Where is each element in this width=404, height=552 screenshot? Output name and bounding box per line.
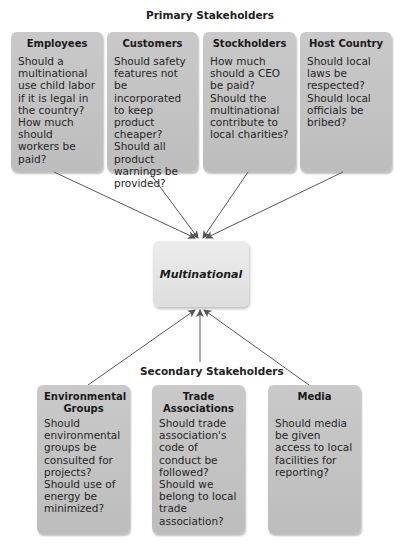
secondary-box-environmental-groups: Environmental Groups Should environmenta… xyxy=(37,385,130,534)
box-title: Environmental Groups xyxy=(44,391,123,415)
secondary-box-trade-associations: Trade Associations Should trade associat… xyxy=(152,385,245,534)
secondary-stakeholders-title: Secondary Stakeholders xyxy=(140,365,284,377)
multinational-box: Multinational xyxy=(153,241,249,307)
arrow-host-country xyxy=(206,172,343,238)
box-text: Should media be given access to local fa… xyxy=(275,417,354,478)
box-title: Trade Associations xyxy=(159,391,238,415)
box-text: Should trade association's code of condu… xyxy=(159,417,238,527)
secondary-box-media: Media Should media be given access to lo… xyxy=(268,385,361,534)
multinational-label: Multinational xyxy=(160,268,242,281)
box-text: Should environmental groups be consulted… xyxy=(44,417,123,515)
box-title: Media xyxy=(275,391,354,403)
